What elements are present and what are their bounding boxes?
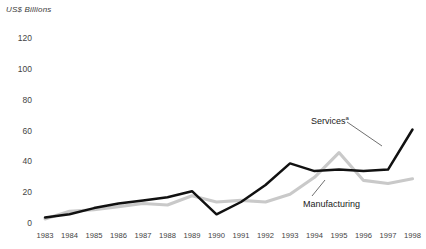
series-annotation-manufacturing: Manufacturing	[303, 199, 360, 209]
manufacturing-leader-line	[312, 180, 325, 196]
x-tick-1992: 1992	[253, 231, 279, 240]
chart-plot-area	[0, 0, 426, 249]
series-annotation-services-text: Services	[311, 116, 346, 126]
x-tick-1994: 1994	[302, 231, 328, 240]
x-tick-1989: 1989	[179, 231, 205, 240]
x-tick-1985: 1985	[81, 231, 107, 240]
x-tick-1984: 1984	[57, 231, 83, 240]
x-tick-1988: 1988	[155, 231, 181, 240]
services-leader-line	[347, 122, 382, 146]
x-tick-1995: 1995	[326, 231, 352, 240]
x-tick-1987: 1987	[130, 231, 156, 240]
chart-container: US$ Billions 120 100 80 60 40 20 0 Servi…	[0, 0, 426, 249]
x-tick-1998: 1998	[400, 231, 426, 240]
x-tick-1993: 1993	[277, 231, 303, 240]
series-annotation-services-superscript: a	[346, 115, 349, 121]
x-tick-1997: 1997	[375, 231, 401, 240]
x-tick-1990: 1990	[204, 231, 230, 240]
x-tick-1991: 1991	[228, 231, 254, 240]
x-tick-1996: 1996	[351, 231, 377, 240]
x-tick-1986: 1986	[106, 231, 132, 240]
series-annotation-services: Servicesa	[311, 116, 349, 126]
x-tick-1983: 1983	[32, 231, 58, 240]
